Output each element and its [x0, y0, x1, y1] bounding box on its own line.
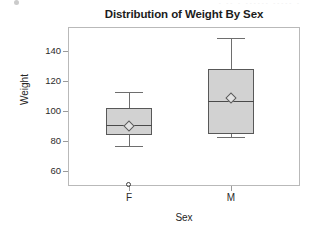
- x-axis-label: Sex: [68, 212, 300, 223]
- whisker-upper: [129, 92, 130, 109]
- x-tick-label-m: M: [211, 192, 251, 203]
- x-tick-label-f: F: [109, 192, 149, 203]
- y-tick-label: 60: [31, 165, 61, 176]
- whisker-cap-upper: [217, 38, 245, 39]
- outlier-marker: [126, 182, 131, 187]
- y-tick-mark: [63, 141, 68, 142]
- y-tick-label: 100: [31, 105, 61, 116]
- whisker-upper: [231, 38, 232, 70]
- x-tick-mark: [129, 186, 130, 191]
- y-tick-mark: [63, 171, 68, 172]
- y-axis-label: Weight: [19, 60, 30, 120]
- y-tick-label: 80: [31, 135, 61, 146]
- whisker-cap-lower: [217, 137, 245, 138]
- boxplot-figure: - -- - ------ ----- - Distribution of We…: [0, 0, 309, 232]
- y-tick-mark: [63, 111, 68, 112]
- y-tick-label: 140: [31, 45, 61, 56]
- y-tick-mark: [63, 81, 68, 82]
- chart-title: Distribution of Weight By Sex: [68, 8, 300, 20]
- plot-area: [68, 27, 300, 186]
- y-tick-label: 120: [31, 75, 61, 86]
- y-tick-mark: [63, 51, 68, 52]
- x-tick-mark: [231, 186, 232, 191]
- whisker-cap-upper: [115, 92, 143, 93]
- scan-blob-icon: [14, 0, 19, 5]
- whisker-cap-lower: [115, 146, 143, 147]
- scan-ghost-text: - -- - ------ ----- -: [219, 0, 301, 8]
- whisker-lower: [129, 135, 130, 146]
